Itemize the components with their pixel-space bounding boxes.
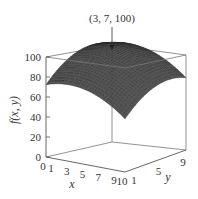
x-tick-label: 0 bbox=[40, 160, 46, 172]
surface-plot: 020406080100 01357910 159 f(x, y) x y (3… bbox=[0, 0, 198, 199]
maximum-annotation: (3, 7, 100) bbox=[89, 12, 135, 25]
z-tick-label: 100 bbox=[25, 51, 42, 63]
y-tick-label: 1 bbox=[131, 174, 137, 186]
x-tick-label: 5 bbox=[80, 168, 86, 180]
x-tick-label: 1 bbox=[48, 162, 54, 174]
y-axis-ticks: 159 bbox=[131, 156, 186, 186]
z-tick-label: 80 bbox=[30, 71, 42, 83]
y-tick-label: 5 bbox=[156, 165, 162, 177]
z-tick-label: 40 bbox=[30, 111, 42, 123]
z-tick-label: 20 bbox=[30, 131, 42, 143]
y-axis-label: y bbox=[164, 170, 171, 184]
x-axis-label: x bbox=[68, 177, 75, 191]
x-tick-label: 7 bbox=[96, 171, 102, 183]
x-tick-label: 3 bbox=[64, 165, 70, 177]
z-axis-label: f(x, y) bbox=[7, 96, 21, 124]
x-tick-label: 10 bbox=[117, 175, 129, 187]
y-tick-label: 9 bbox=[180, 156, 186, 168]
z-tick-label: 60 bbox=[30, 91, 42, 103]
surface-mesh bbox=[46, 42, 186, 119]
